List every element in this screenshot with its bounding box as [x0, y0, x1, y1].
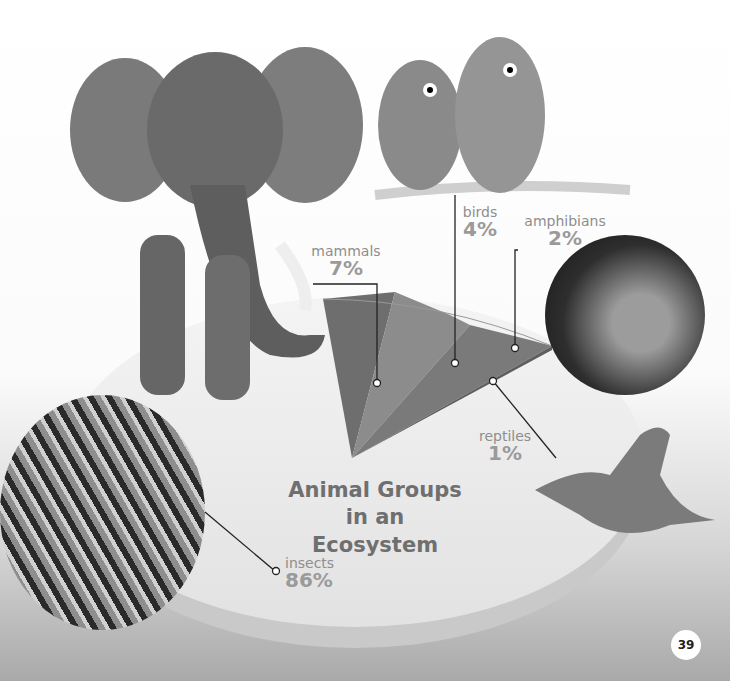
page-number: 39 [671, 630, 701, 660]
bees-image [0, 395, 205, 630]
lovebirds-image [370, 30, 635, 205]
label-amphibians: amphibians 2% [515, 214, 615, 248]
label-insects: insects 86% [285, 556, 345, 590]
tree-frog-image [545, 235, 705, 395]
label-birds: birds 4% [455, 205, 505, 239]
chart-title: Animal Groups in an Ecosystem [280, 477, 470, 559]
label-mammals: mammals 7% [306, 244, 386, 278]
lizard-image [530, 405, 720, 555]
label-reptiles: reptiles 1% [470, 429, 540, 463]
elephant-image [70, 35, 370, 405]
